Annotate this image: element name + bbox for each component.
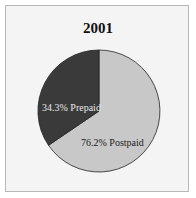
pie-chart: 34.3% Prepaid 76.2% Postpaid xyxy=(0,0,196,198)
prepaid-label: 34.3% Prepaid xyxy=(42,102,101,113)
postpaid-label: 76.2% Postpaid xyxy=(81,137,144,148)
